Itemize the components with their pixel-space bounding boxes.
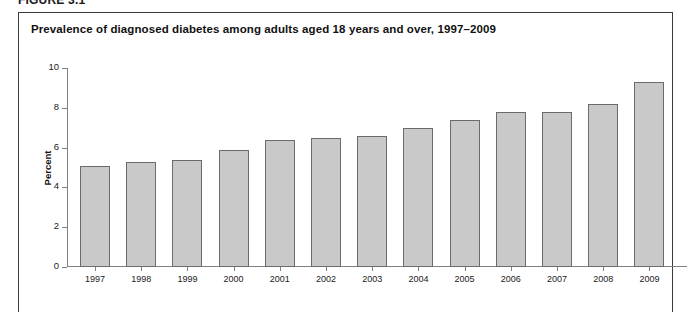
bar-group: 2004 <box>403 68 433 267</box>
bar-group: 2003 <box>357 68 387 267</box>
y-axis-tick-label: 0 <box>54 260 59 271</box>
chart-title: Prevalence of diagnosed diabetes among a… <box>31 23 496 35</box>
x-axis-tick-label: 2005 <box>455 274 475 284</box>
y-axis-tick-label: 6 <box>54 141 59 152</box>
bar-group: 2009 <box>634 68 664 267</box>
x-axis-tick-mark <box>649 267 650 271</box>
x-axis-tick-mark <box>326 267 327 271</box>
x-axis-tick-label: 2009 <box>639 274 659 284</box>
bars-layer: 1997199819992000200120022003200420052006… <box>67 68 672 267</box>
x-axis-tick-mark <box>511 267 512 271</box>
bar-group: 2007 <box>542 68 572 267</box>
x-axis-tick-label: 1997 <box>85 274 105 284</box>
bar-group: 2001 <box>265 68 295 267</box>
x-axis-tick-mark <box>95 267 96 271</box>
bar-group: 2006 <box>496 68 526 267</box>
x-axis-tick-label: 2004 <box>408 274 428 284</box>
figure-number-label: FIGURE 3.1 <box>18 0 85 7</box>
bar-group: 2005 <box>450 68 480 267</box>
bar <box>588 104 618 267</box>
x-axis-tick-mark <box>234 267 235 271</box>
bar <box>172 160 202 267</box>
bar <box>80 166 110 267</box>
bar <box>542 112 572 267</box>
y-axis-tick-label: 8 <box>54 101 59 112</box>
y-axis-title: Percent <box>42 150 53 185</box>
bar-group: 1998 <box>126 68 156 267</box>
x-axis-tick-label: 2003 <box>362 274 382 284</box>
y-axis-tick-label: 2 <box>54 220 59 231</box>
bar-group: 2002 <box>311 68 341 267</box>
bar-group: 1997 <box>80 68 110 267</box>
x-axis-tick-label: 2008 <box>593 274 613 284</box>
bar <box>265 140 295 267</box>
bar <box>450 120 480 267</box>
x-axis-tick-label: 2000 <box>224 274 244 284</box>
figure-panel: Prevalence of diagnosed diabetes among a… <box>18 12 673 312</box>
x-axis-tick-label: 2001 <box>270 274 290 284</box>
x-axis-tick-mark <box>280 267 281 271</box>
x-axis-tick-mark <box>557 267 558 271</box>
bar <box>357 136 387 267</box>
bar <box>496 112 526 267</box>
x-axis-tick-mark <box>372 267 373 271</box>
bar <box>219 150 249 267</box>
x-axis-tick-mark <box>465 267 466 271</box>
bar <box>403 128 433 267</box>
x-axis-tick-mark <box>418 267 419 271</box>
y-axis-tick-label: 4 <box>54 180 59 191</box>
y-axis-tick-label: 10 <box>48 61 59 72</box>
x-axis-tick-label: 1998 <box>131 274 151 284</box>
bar <box>126 162 156 267</box>
chart-plot-area: Percent 0246810 199719981999200020012002… <box>67 68 672 267</box>
bar-group: 2000 <box>219 68 249 267</box>
y-axis-tick-mark <box>62 267 67 268</box>
x-axis-tick-mark <box>603 267 604 271</box>
x-axis-tick-label: 2006 <box>501 274 521 284</box>
bar <box>311 138 341 267</box>
x-axis-tick-mark <box>141 267 142 271</box>
x-axis-tick-label: 2007 <box>547 274 567 284</box>
bar-group: 2008 <box>588 68 618 267</box>
x-axis-tick-mark <box>187 267 188 271</box>
bar-group: 1999 <box>172 68 202 267</box>
x-axis-tick-label: 1999 <box>177 274 197 284</box>
bar <box>634 82 664 267</box>
x-axis-tick-label: 2002 <box>316 274 336 284</box>
